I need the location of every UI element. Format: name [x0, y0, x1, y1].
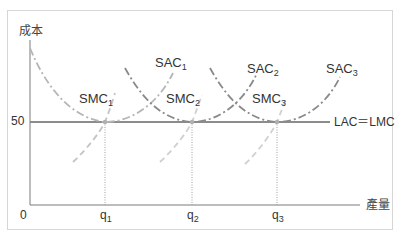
x-tick-q3: q3	[272, 209, 284, 224]
sac3-label: SAC3	[326, 62, 358, 78]
sac1-label: SAC1	[155, 56, 187, 72]
smc2-label: SMC2	[166, 92, 200, 108]
smc1-label: SMC1	[79, 92, 113, 108]
x-axis-label: 產量	[366, 199, 390, 211]
x-tick-q2: q2	[187, 209, 199, 224]
lac-lmc-label: LAC＝LMC	[334, 116, 395, 128]
min-point-q2	[190, 120, 194, 124]
sac2-label: SAC2	[247, 62, 279, 78]
sac1-curve	[30, 48, 173, 122]
x-tick-q1: q1	[100, 209, 112, 224]
y-tick-50: 50	[11, 115, 24, 127]
origin-label: 0	[20, 209, 27, 221]
y-axis-label: 成本	[19, 25, 43, 37]
min-point-q1	[103, 120, 107, 124]
min-point-q3	[275, 120, 279, 124]
smc3-label: SMC3	[252, 92, 286, 108]
